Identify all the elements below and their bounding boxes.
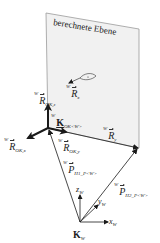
label-ROK-y: WROK,y: [58, 138, 80, 154]
label-ROK-x: WROK,x: [4, 137, 26, 153]
label-P1: WPH1_P<W>: [63, 160, 97, 176]
label-Ry: WRy: [103, 126, 117, 142]
diagram-canvas: berechnete Ebene WRx WROK,z WKOK<W> WROK…: [0, 0, 160, 243]
label-frame-KOK: WKOK<W>: [51, 113, 82, 129]
label-frame-KW: KW: [73, 225, 85, 241]
axis-OK-x: [28, 128, 48, 138]
label-zW: zW: [76, 186, 83, 195]
label-yW: yW: [98, 198, 106, 207]
label-ROK-z: WROK,z: [34, 91, 55, 107]
label-P2: WPH2_P<W>: [114, 182, 148, 198]
axis-W-y: [80, 205, 98, 222]
label-xW: xW: [109, 218, 117, 227]
label-Rx: WRx: [66, 84, 80, 100]
